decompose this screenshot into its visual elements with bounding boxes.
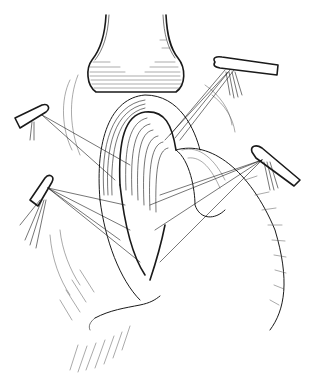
- tissue-hatching: [50, 75, 235, 295]
- retractor-upper-right: [165, 57, 278, 140]
- illustration-drawing: [0, 0, 317, 379]
- upper-tubular-structure: [88, 15, 184, 92]
- surgical-illustration: [0, 0, 317, 379]
- retractor-lower-left: [20, 175, 140, 262]
- curved-organ-right: [176, 148, 286, 330]
- lower-tissue-fold: [60, 270, 160, 372]
- retractor-right: [150, 146, 300, 262]
